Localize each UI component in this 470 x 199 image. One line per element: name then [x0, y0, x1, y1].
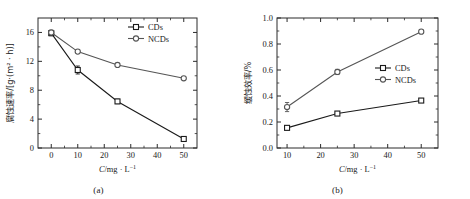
- x-tick-label: 10: [74, 151, 82, 160]
- data-point-ncds: [115, 62, 120, 67]
- x-tick-label: 10: [283, 151, 291, 160]
- legend-marker-cds: [381, 66, 386, 71]
- y-tick-label: 8: [30, 86, 34, 95]
- x-axis-title: C/mg · L−1: [99, 164, 136, 174]
- figure-container: 010203040500481216CDsNCDsC/mg · L−1腐蚀速率/…: [0, 0, 470, 199]
- x-tick-label: 20: [316, 151, 324, 160]
- data-point-cds: [75, 68, 80, 73]
- y-tick-label: 12: [26, 57, 34, 66]
- x-tick-label: 30: [350, 151, 358, 160]
- legend-label-cds: CDs: [395, 64, 410, 73]
- y-tick-label: 0.8: [263, 40, 273, 49]
- legend-marker-ncds: [380, 77, 385, 82]
- data-point-cds: [115, 99, 120, 104]
- x-tick-label: 0: [49, 151, 53, 160]
- y-tick-label: 16: [26, 28, 34, 37]
- data-point-ncds: [75, 49, 80, 54]
- plot-frame: [38, 18, 197, 148]
- chart-panel-a: 010203040500481216CDsNCDsC/mg · L−1腐蚀速率/…: [0, 0, 235, 199]
- legend: CDsNCDs: [375, 64, 416, 85]
- series-line-cds: [287, 101, 421, 128]
- y-tick-label: 4: [30, 115, 35, 124]
- chart-a-svg: 010203040500481216CDsNCDsC/mg · L−1腐蚀速率/…: [0, 0, 235, 199]
- panel-a-caption: (a): [0, 185, 235, 195]
- data-point-cds: [335, 111, 340, 116]
- y-tick-label: 0.4: [263, 92, 274, 101]
- legend-label-cds: CDs: [148, 23, 163, 32]
- legend-marker-cds: [134, 25, 139, 30]
- legend: CDsNCDs: [128, 23, 169, 44]
- y-tick-label: 0.0: [263, 144, 273, 153]
- x-tick-label: 50: [417, 151, 425, 160]
- legend-label-ncds: NCDs: [148, 35, 169, 44]
- x-tick-label: 50: [180, 151, 188, 160]
- x-tick-label: 30: [127, 151, 135, 160]
- y-axis-title: 腐蚀速率/[g·(m² · h)]: [5, 43, 15, 123]
- data-point-cds: [181, 136, 186, 141]
- data-point-cds: [419, 98, 424, 103]
- y-tick-label: 1.0: [263, 14, 273, 23]
- legend-label-ncds: NCDs: [395, 76, 416, 85]
- data-point-ncds: [181, 76, 186, 81]
- x-axis-title: C/mg · L−1: [339, 164, 376, 174]
- panel-b-caption: (b): [235, 185, 470, 195]
- legend-marker-ncds: [133, 36, 138, 41]
- data-point-ncds: [49, 30, 54, 35]
- y-axis-title: 缓蚀效率/%: [243, 62, 253, 105]
- y-tick-label: 0.6: [263, 66, 273, 75]
- chart-panel-b: 10203040500.00.20.40.60.81.0CDsNCDsC/mg …: [235, 0, 470, 199]
- chart-b-svg: 10203040500.00.20.40.60.81.0CDsNCDsC/mg …: [235, 0, 470, 199]
- series-line-cds: [51, 33, 184, 139]
- data-point-ncds: [335, 69, 340, 74]
- data-point-ncds: [284, 104, 289, 109]
- data-point-ncds: [419, 29, 424, 34]
- x-tick-label: 40: [153, 151, 161, 160]
- y-tick-label: 0.2: [263, 118, 273, 127]
- x-tick-label: 20: [100, 151, 108, 160]
- x-tick-label: 40: [384, 151, 392, 160]
- data-point-cds: [285, 125, 290, 130]
- y-tick-label: 0: [30, 144, 34, 153]
